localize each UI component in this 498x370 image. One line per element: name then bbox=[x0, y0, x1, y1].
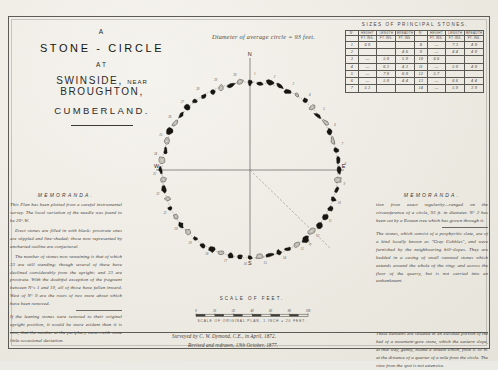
stone-prostrate bbox=[184, 228, 192, 236]
stone-prostrate bbox=[256, 254, 263, 259]
cell-dimension: 6 6 bbox=[427, 56, 446, 63]
stone-erect bbox=[177, 221, 185, 230]
stone-erect bbox=[183, 103, 191, 111]
scale-tick-label: 60 bbox=[269, 309, 273, 313]
stone-number-label: 15 bbox=[264, 261, 268, 265]
memoranda-left-p4: If the leaning stones were restored to t… bbox=[10, 313, 122, 345]
cell-dimension bbox=[377, 49, 396, 56]
cell-dimension bbox=[396, 41, 415, 48]
stone-prostrate bbox=[307, 227, 317, 236]
col-length-1: LENGTH bbox=[377, 31, 396, 36]
cell-dimension: 4 3 bbox=[396, 63, 415, 70]
cell-dimension: 5 3 bbox=[358, 85, 377, 92]
cell-dimension: 6 3 bbox=[377, 63, 396, 70]
cell-stone-no: 10 bbox=[414, 56, 427, 63]
table-body: 16 08—7 34 024 69—4 44 03—5 05 9106 64—6… bbox=[346, 41, 484, 92]
stone-prostrate bbox=[218, 84, 223, 91]
cell-dimension: 7 3 bbox=[446, 41, 465, 48]
cell-stone-no: 9 bbox=[414, 49, 427, 56]
cell-dimension: 5 9 bbox=[446, 85, 465, 92]
stone-number-label: 10 bbox=[338, 201, 342, 205]
stone-number-label: 17 bbox=[224, 259, 228, 263]
table-row: 24 69—4 44 0 bbox=[346, 49, 484, 56]
stone-sizes-table-block: SIZES OF PRINCIPAL STONES. N° HEIGHT LEN… bbox=[345, 22, 485, 93]
stone-number-label: 1 bbox=[254, 72, 256, 76]
memoranda-left-rule bbox=[76, 310, 122, 311]
stone-erect bbox=[333, 147, 340, 154]
stone-number-label: 14 bbox=[283, 256, 287, 260]
stone-number-label: 24 bbox=[154, 152, 158, 156]
stone-prostrate bbox=[171, 119, 179, 127]
stone-erect bbox=[265, 79, 275, 87]
cell-stone-no: 1 bbox=[346, 41, 359, 48]
plan-svg: S. 55° E. N S E W 1234567891011121314151… bbox=[152, 52, 348, 266]
stone-number-label: 5 bbox=[323, 107, 325, 111]
title-article: A bbox=[18, 28, 186, 35]
stone-prostrate bbox=[330, 136, 335, 144]
table-row: 16 08—7 34 0 bbox=[346, 41, 484, 48]
table-row: 3—5 05 9106 6 bbox=[346, 56, 484, 63]
stone-number-label: 20 bbox=[174, 227, 178, 231]
stone-erect bbox=[302, 97, 309, 104]
cell-dimension: 4 0 bbox=[465, 41, 484, 48]
compass-north-label: N bbox=[248, 52, 253, 57]
stone-prostrate bbox=[334, 177, 341, 183]
cell-dimension: 4 0 bbox=[465, 49, 484, 56]
stone-erect bbox=[160, 185, 167, 194]
cell-dimension: — bbox=[358, 78, 377, 85]
stone-erect bbox=[315, 221, 323, 230]
cell-dimension: — bbox=[427, 49, 446, 56]
cell-dimension: — bbox=[427, 63, 446, 70]
stone-number-label: 8 bbox=[345, 162, 347, 166]
stone-erect bbox=[193, 236, 199, 241]
col-breadth-1: BREADTH bbox=[396, 31, 415, 36]
stone-prostrate bbox=[218, 251, 224, 255]
stone-circle-plan: S. 55° E. N S E W 1234567891011121314151… bbox=[152, 52, 348, 266]
stone-number-label: 4 bbox=[309, 93, 311, 97]
stone-prostrate bbox=[293, 241, 301, 248]
table-title: SIZES OF PRINCIPAL STONES. bbox=[345, 22, 485, 27]
stone-number-label: 16 bbox=[244, 262, 248, 266]
stone-number-label: 29 bbox=[214, 78, 218, 82]
diameter-note: Diameter of average circle = 93 feet. bbox=[196, 33, 331, 40]
stone-erect bbox=[336, 156, 340, 163]
stone-number-label: 21 bbox=[163, 211, 167, 215]
cell-stone-no: 14 bbox=[414, 85, 427, 92]
scale-tick-label: 80 bbox=[288, 309, 292, 313]
stone-number-label: 28 bbox=[196, 87, 200, 91]
stone-number-label: 18 bbox=[205, 252, 209, 256]
cell-dimension: — bbox=[427, 85, 446, 92]
credit-line-1: Surveyed by C. W. Dymond, C.E., in April… bbox=[172, 332, 372, 341]
memoranda-right: MEMORANDA. tion from exact regularity—ra… bbox=[376, 192, 488, 285]
cell-dimension: 3 9 bbox=[465, 85, 484, 92]
scale-tick-label: 10 bbox=[213, 309, 217, 313]
stone-number-label: 27 bbox=[181, 100, 185, 104]
scale-block: SCALE OF FEET. 01020406080100 SCALE OF O… bbox=[178, 296, 326, 323]
cell-dimension: — bbox=[358, 70, 377, 77]
cell-stone-no: 12 bbox=[414, 70, 427, 77]
cell-dimension bbox=[377, 85, 396, 92]
stone-prostrate bbox=[236, 78, 244, 85]
cell-dimension bbox=[465, 70, 484, 77]
cell-dimension: — bbox=[427, 41, 446, 48]
stone-erect bbox=[248, 80, 253, 86]
cell-dimension: 7 0 bbox=[377, 70, 396, 77]
stone-prostrate bbox=[163, 137, 171, 145]
memoranda-left: MEMORANDA. This Plan has been plotted fr… bbox=[10, 192, 122, 345]
cell-dimension: 6 0 bbox=[358, 41, 377, 48]
scale-tick-label: 20 bbox=[232, 309, 236, 313]
stone-number-label: 13 bbox=[301, 247, 305, 251]
stone-prostrate bbox=[164, 196, 171, 201]
stone-erect bbox=[237, 255, 243, 260]
memoranda-left-p3: The number of stones now remaining is th… bbox=[10, 253, 122, 309]
memoranda-right-heading: MEMORANDA. bbox=[376, 192, 488, 198]
memoranda-left-p1: This Plan has been plotted from a carefu… bbox=[10, 201, 122, 225]
cell-dimension: 4 4 bbox=[465, 78, 484, 85]
stone-number-label: 11 bbox=[329, 219, 332, 223]
memoranda-left-p2: Erect stones are filled in with black: p… bbox=[10, 227, 122, 251]
stone-erect bbox=[210, 89, 216, 96]
stone-number-label: 22 bbox=[156, 192, 160, 196]
cell-dimension: 5 0 bbox=[377, 56, 396, 63]
scale-bar: 01020406080100 bbox=[178, 306, 326, 317]
scale-title: SCALE OF FEET. bbox=[178, 296, 326, 301]
